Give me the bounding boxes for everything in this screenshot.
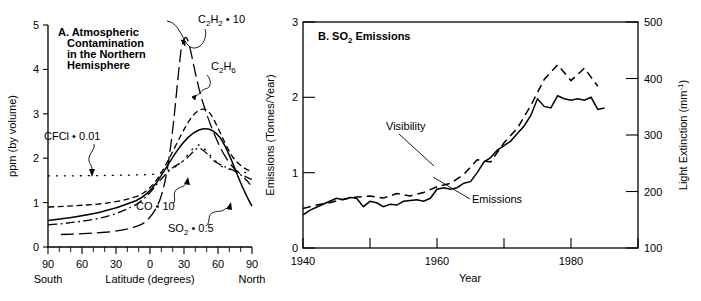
label-c2h6: C2H6 xyxy=(211,60,236,75)
panel-a-ytick-5: 5 xyxy=(33,19,39,31)
panel-a-x-axis-title: Latitude (degrees) xyxy=(105,273,194,285)
panel-b-ytick-left-0: 0 xyxy=(292,242,298,254)
panel-a: 0 1 2 3 4 5 ppm (by volume) xyxy=(6,13,265,285)
panel-b-xtick-1940: 1940 xyxy=(291,255,315,267)
panel-b-xtick-1960: 1960 xyxy=(425,255,449,267)
panel-a-ytick-3: 3 xyxy=(33,108,39,120)
panel-b-title: B. SO2 Emissions xyxy=(318,30,410,45)
panel-a-x-major-ticks xyxy=(48,247,252,254)
panel-b-x-axis-title: Year xyxy=(459,272,482,284)
leader-emissions xyxy=(433,177,470,199)
panel-b-ytick-right-100: 100 xyxy=(644,242,662,254)
panel-a-xtick-60s: 60 xyxy=(76,258,88,270)
label-co: CO • 10 xyxy=(136,200,175,212)
figure-svg: 0 1 2 3 4 5 ppm (by volume) xyxy=(0,0,701,301)
leader-cfcl xyxy=(89,144,94,170)
panel-a-xtick-60n: 60 xyxy=(212,258,224,270)
panel-b-ytick-right-200: 200 xyxy=(644,186,662,198)
panel-b-left-y-axis-title: Emissions (Tonnes/Year) xyxy=(264,74,276,195)
curve-so2 xyxy=(48,148,252,225)
panel-b-right-y-ticks xyxy=(626,22,638,248)
panel-b-ytick-right-500: 500 xyxy=(644,16,662,28)
panel-a-ytick-4: 4 xyxy=(33,63,39,75)
panel-a-xtick-30n: 30 xyxy=(178,258,190,270)
leader-co xyxy=(173,183,186,204)
panel-a-y-axis-title: ppm (by volume) xyxy=(6,95,18,177)
panel-a-ytick-0: 0 xyxy=(33,241,39,253)
panel-b-x-ticks xyxy=(303,238,638,248)
arrowhead-c2h2 xyxy=(181,40,185,46)
arrowhead-co xyxy=(184,177,190,185)
scientific-figure: 0 1 2 3 4 5 ppm (by volume) xyxy=(0,0,701,301)
arrowhead-so2 xyxy=(226,202,232,210)
arrowhead-c2h6 xyxy=(192,95,196,100)
panel-a-south-label: South xyxy=(34,273,63,285)
arrowhead-cfcl xyxy=(89,169,95,177)
leader-c2h6 xyxy=(192,75,210,97)
panel-a-xtick-0: 0 xyxy=(147,258,153,270)
panel-a-xtick-90s: 90 xyxy=(42,258,54,270)
label-so2: SO2 • 0.5 xyxy=(168,222,214,237)
panel-a-xtick-30s: 30 xyxy=(110,258,122,270)
label-visibility: Visibility xyxy=(386,120,426,132)
panel-b-ytick-left-1: 1 xyxy=(292,167,298,179)
panel-b-right-y-axis-title: Light Extinction (mm-1) xyxy=(676,80,689,190)
leader-visibility xyxy=(399,134,434,166)
label-c2h2: C2H2 • 10 xyxy=(198,13,245,28)
panel-a-north-label: North xyxy=(239,273,266,285)
panel-a-title-line-4: Hemisphere xyxy=(67,59,130,71)
panel-b-ytick-left-2: 2 xyxy=(292,91,298,103)
panel-b-xtick-1980: 1980 xyxy=(559,255,583,267)
panel-b-ytick-right-300: 300 xyxy=(644,129,662,141)
curve-emissions xyxy=(303,96,605,215)
panel-b-frame xyxy=(303,22,638,248)
panel-a-ytick-2: 2 xyxy=(33,152,39,164)
panel-a-ytick-1: 1 xyxy=(33,197,39,209)
panel-a-xtick-90n: 90 xyxy=(246,258,258,270)
leader-c2h2 xyxy=(167,21,206,48)
label-emissions: Emissions xyxy=(472,193,523,205)
panel-b-ytick-right-400: 400 xyxy=(644,73,662,85)
panel-a-title: A. Atmospheric Contamination in the Nort… xyxy=(58,26,146,71)
panel-b-ytick-left-3: 3 xyxy=(292,16,298,28)
panel-b: 0 1 2 3 Emissions (Tonnes/Year) 100 200 … xyxy=(264,16,689,284)
label-cfcl: CFCl • 0.01 xyxy=(44,130,100,142)
